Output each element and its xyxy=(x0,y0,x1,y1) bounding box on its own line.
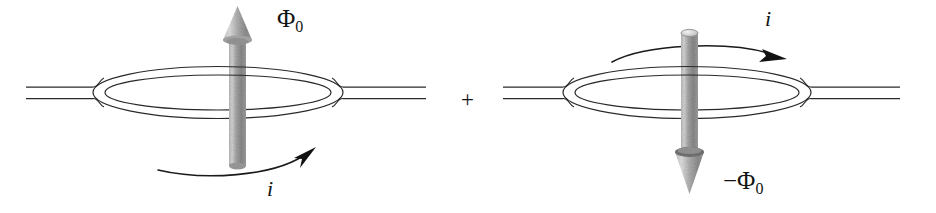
left-current-label: i xyxy=(267,178,273,200)
right-flux-arrowhead-down xyxy=(675,147,704,194)
left-ring-circuit xyxy=(26,6,426,176)
left-ring-junctions xyxy=(93,78,343,107)
right-flux-symbol: Φ xyxy=(737,167,755,194)
right-flux-sign: − xyxy=(723,167,737,194)
right-flux-subscript: 0 xyxy=(755,180,763,197)
right-ring-circuit xyxy=(503,29,900,194)
left-leads xyxy=(26,87,426,99)
left-flux-symbol: Φ xyxy=(277,5,295,32)
right-flux-label: −Φ0 xyxy=(723,168,763,197)
right-flux-arrow-shaft-upper xyxy=(681,33,698,90)
flux-superposition-figure: Φ0 i + i −Φ0 xyxy=(0,0,936,213)
left-flux-label: Φ0 xyxy=(277,6,303,35)
right-flux-arrow-top-cap xyxy=(681,29,698,36)
right-flux-arrow-shaft-lower xyxy=(681,88,698,150)
left-flux-subscript: 0 xyxy=(295,18,303,35)
right-current-arc xyxy=(612,46,787,62)
left-superconducting-ring xyxy=(93,67,343,119)
left-flux-arrowhead-up xyxy=(223,6,252,45)
right-current-label: i xyxy=(765,8,771,30)
plus-operator: + xyxy=(461,88,474,111)
left-flux-arrow-shaft-lower xyxy=(229,88,246,169)
